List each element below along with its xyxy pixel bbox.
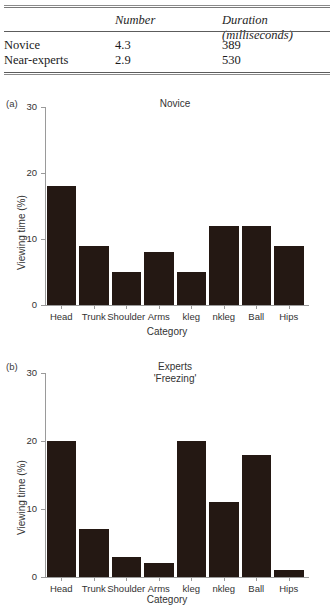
x-axis-tick xyxy=(94,306,95,309)
table-rule-bottom xyxy=(4,72,330,73)
x-axis-tick xyxy=(191,306,192,309)
summary-table: Number Duration (milliseconds) Novice 4.… xyxy=(0,0,334,80)
x-axis-tick xyxy=(289,306,290,309)
row-label-near-experts: Near-experts xyxy=(4,53,68,68)
bar xyxy=(209,226,239,305)
bar xyxy=(79,246,109,305)
row-number-novice: 4.3 xyxy=(115,38,131,53)
table-header-number: Number xyxy=(115,13,155,28)
y-axis-tick xyxy=(41,441,45,442)
bar xyxy=(144,563,174,577)
table-rule-bottom-2 xyxy=(4,74,330,75)
bar xyxy=(242,455,272,577)
x-axis-tick xyxy=(224,578,225,581)
row-label-novice: Novice xyxy=(4,38,40,53)
x-axis-line xyxy=(45,305,309,306)
table-rule-top xyxy=(4,5,330,6)
x-axis-tick xyxy=(256,306,257,309)
x-axis-tick xyxy=(94,578,95,581)
y-axis-tick xyxy=(41,239,45,240)
y-axis-tick-label: 20 xyxy=(17,167,37,178)
x-axis-tick xyxy=(159,306,160,309)
x-axis-tick xyxy=(61,578,62,581)
x-axis-tick xyxy=(61,306,62,309)
bar xyxy=(177,272,207,305)
y-axis-tick-label: 0 xyxy=(17,299,37,310)
plot-area-b: 0102030HeadTrunkShoulderArmsklegnklegBal… xyxy=(0,355,334,612)
x-axis-tick xyxy=(126,306,127,309)
chart-panel-b: (b) Experts 'Freezing' Viewing time (%) … xyxy=(0,355,334,612)
x-axis-line xyxy=(45,577,309,578)
bar xyxy=(274,246,304,305)
y-axis-tick xyxy=(41,173,45,174)
y-axis-tick-label: 30 xyxy=(17,101,37,112)
y-axis-tick-label: 0 xyxy=(17,571,37,582)
x-axis-tick xyxy=(289,578,290,581)
bar xyxy=(177,441,207,577)
plot-area-a: 0102030HeadTrunkShoulderArmsklegnklegBal… xyxy=(0,95,334,345)
bar xyxy=(242,226,272,305)
bar xyxy=(79,529,109,577)
y-axis-tick-label: 10 xyxy=(17,233,37,244)
table-rule-top-2 xyxy=(4,7,330,8)
bar xyxy=(47,441,77,577)
row-number-near-experts: 2.9 xyxy=(115,53,131,68)
y-axis-tick xyxy=(41,577,45,578)
x-axis-tick xyxy=(159,578,160,581)
bar xyxy=(144,252,174,305)
chart-panel-a: (a) Novice Viewing time (%) Category 010… xyxy=(0,95,334,345)
bar xyxy=(112,557,142,577)
x-axis-tick xyxy=(256,578,257,581)
x-axis-tick xyxy=(224,306,225,309)
bar xyxy=(47,186,77,305)
x-axis-category-label: Hips xyxy=(259,583,319,594)
y-axis-tick-label: 20 xyxy=(17,435,37,446)
x-axis-tick xyxy=(126,578,127,581)
y-axis-tick xyxy=(41,305,45,306)
bar xyxy=(274,570,304,577)
table-rule-mid xyxy=(4,31,330,32)
y-axis-tick-label: 30 xyxy=(17,367,37,378)
bar xyxy=(209,502,239,577)
row-duration-near-experts: 530 xyxy=(222,53,241,68)
y-axis-tick-label: 10 xyxy=(17,503,37,514)
x-axis-category-label: Hips xyxy=(259,311,319,322)
row-duration-novice: 389 xyxy=(222,38,241,53)
y-axis-tick xyxy=(41,373,45,374)
y-axis-tick xyxy=(41,509,45,510)
x-axis-tick xyxy=(191,578,192,581)
y-axis-tick xyxy=(41,107,45,108)
bar xyxy=(112,272,142,305)
